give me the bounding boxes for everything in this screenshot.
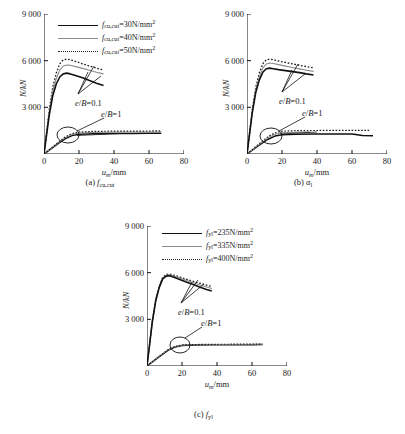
x-tick-c-60: 60	[248, 369, 257, 378]
legend-item-c-2: fyl=400N/mm2	[162, 252, 253, 265]
y-tick-c-9000: 9 000	[125, 222, 144, 231]
y-tick-b-3000: 3 000	[225, 103, 244, 112]
x-tick-a-0: 0	[42, 157, 46, 166]
caption-c: (c) fyl	[194, 410, 213, 419]
legend-item-a-2: fcu,cut=50N/mm2	[58, 44, 155, 57]
x-tick-a-20: 20	[75, 157, 84, 166]
legend-swatch-dotted-icon	[58, 47, 98, 54]
x-tick-a-60: 60	[145, 157, 154, 166]
y-tick-a-6000: 6 000	[22, 56, 41, 65]
legend-item-a-0: fcu,cut=30N/mm2	[58, 18, 155, 31]
annotation-ecc-01-c: e/B=0.1	[178, 308, 205, 317]
legend-label-c-0: fyl=235N/mm2	[206, 229, 253, 237]
legend-a: fcu,cut=30N/mm2 fcu,cut=40N/mm2 fcu,cut=…	[58, 18, 155, 57]
legend-label-c-1: fyl=335N/mm2	[206, 242, 253, 250]
x-tick-a-80: 80	[180, 157, 189, 166]
annotation-ecc-1-c: e/B=1	[201, 319, 221, 328]
legend-label-a-1: fcu,cut=40N/mm2	[102, 34, 155, 42]
annotation-ecc-1-a: e/B=1	[101, 110, 121, 119]
caption-a: (a) fcu,cut	[86, 178, 115, 187]
y-axis-label-a: N/kN	[19, 80, 28, 97]
axes-svg-b	[247, 14, 387, 154]
annotation-ecc-01-a: e/B=0.1	[75, 99, 102, 108]
y-tick-b-6000: 6 000	[225, 56, 244, 65]
legend-item-a-1: fcu,cut=40N/mm2	[58, 31, 155, 44]
legend-swatch-solid-thin-icon	[162, 242, 202, 249]
panel-a: N/kN 9 000 6 000 3 000 0 20 40 60 80 um/…	[0, 0, 200, 196]
x-axis-label-b: um/mm	[305, 168, 329, 177]
plot-area-b: N/kN 9 000 6 000 3 000 0 20 40 60 80 um/…	[247, 14, 387, 154]
panel-b: N/kN 9 000 6 000 3 000 0 20 40 60 80 um/…	[203, 0, 403, 196]
x-tick-c-0: 0	[145, 369, 149, 378]
x-tick-b-40: 40	[313, 157, 322, 166]
panel-c: N/kN 9 000 6 000 3 000 0 20 40 60 80 um/…	[101, 204, 306, 432]
legend-label-c-2: fyl=400N/mm2	[206, 255, 253, 263]
x-tick-c-20: 20	[178, 369, 187, 378]
legend-item-c-0: fyl=235N/mm2	[162, 226, 253, 239]
annotation-ecc-01-b: e/B=0.1	[279, 97, 306, 106]
legend-item-c-1: fyl=335N/mm2	[162, 239, 253, 252]
x-axis-label-c: um/mm	[205, 380, 229, 389]
legend-label-a-2: fcu,cut=50N/mm2	[102, 47, 155, 55]
y-tick-c-6000: 6 000	[125, 268, 144, 277]
legend-swatch-solid-thick-icon	[58, 21, 98, 28]
y-tick-b-9000: 9 000	[225, 10, 244, 19]
x-tick-a-40: 40	[110, 157, 119, 166]
x-tick-b-0: 0	[245, 157, 249, 166]
caption-b: (b) αl	[294, 178, 312, 187]
x-tick-b-60: 60	[348, 157, 357, 166]
y-tick-a-3000: 3 000	[22, 103, 41, 112]
y-tick-c-3000: 3 000	[125, 315, 144, 324]
annotation-ecc-1-b: e/B=1	[302, 109, 322, 118]
x-axis-label-a: um/mm	[102, 168, 126, 177]
x-tick-b-20: 20	[278, 157, 287, 166]
y-axis-label-c: N/kN	[122, 292, 131, 309]
legend-swatch-dotted-icon	[162, 255, 202, 262]
legend-label-a-0: fcu,cut=30N/mm2	[102, 21, 155, 29]
legend-swatch-solid-thick-icon	[162, 229, 202, 236]
x-tick-b-80: 80	[383, 157, 392, 166]
legend-swatch-solid-thin-icon	[58, 34, 98, 41]
x-tick-c-80: 80	[283, 369, 292, 378]
x-tick-c-40: 40	[213, 369, 222, 378]
figure-container: N/kN 9 000 6 000 3 000 0 20 40 60 80 um/…	[0, 0, 405, 434]
legend-c: fyl=235N/mm2 fyl=335N/mm2 fyl=400N/mm2	[162, 226, 253, 265]
y-axis-label-b: N/kN	[222, 80, 231, 97]
y-tick-a-9000: 9 000	[22, 10, 41, 19]
